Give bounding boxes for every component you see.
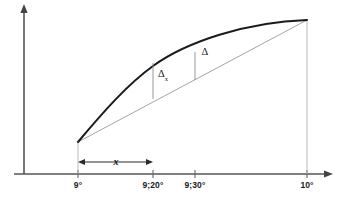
delta-x-subscript: x — [165, 75, 168, 82]
tick-label-9-20: 9;20° — [143, 180, 164, 190]
dimension-arrowhead-right — [146, 159, 153, 165]
interpolation-diagram: 9° 9;20° 9;30° 10° Δx Δ x — [0, 0, 349, 202]
tick-label-10: 10° — [300, 180, 313, 190]
delta-label: Δ — [202, 46, 209, 57]
tick-label-9-30: 9;30° — [185, 180, 206, 190]
diagram-canvas — [0, 0, 349, 202]
y-axis-arrowhead — [20, 4, 27, 13]
chord-line — [78, 20, 307, 142]
delta-x-glyph: Δ — [158, 68, 165, 79]
dimension-label-x: x — [114, 156, 119, 167]
delta-x-label: Δx — [158, 68, 168, 81]
tick-label-9: 9° — [74, 180, 82, 190]
x-axis-arrowhead — [324, 170, 333, 177]
dimension-arrowhead-left — [78, 159, 85, 165]
